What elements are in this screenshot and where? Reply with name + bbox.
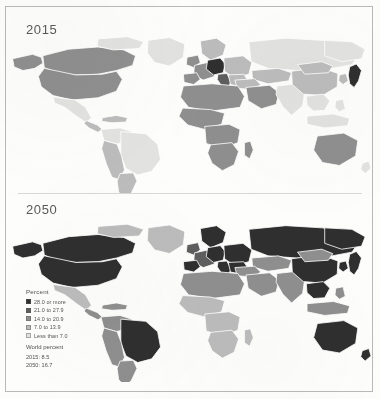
legend-item-label: 28.0 or more — [34, 299, 66, 305]
legend-swatch — [26, 325, 31, 330]
legend-item: 14.0 to 20.9 — [26, 315, 118, 322]
region-australia — [314, 133, 358, 165]
region-japan — [348, 64, 361, 88]
region-japan — [348, 251, 361, 275]
region-north-africa — [180, 271, 244, 298]
region-philippines — [335, 99, 345, 112]
legend-item: 7.0 to 13.9 — [26, 324, 118, 331]
region-canada-arctic — [97, 224, 143, 237]
region-southern-africa — [208, 330, 239, 358]
region-southeast-asia — [306, 282, 330, 299]
region-mexico — [53, 97, 91, 123]
legend-item-label: 21.0 to 27.9 — [34, 307, 64, 313]
region-indonesia — [307, 301, 350, 315]
region-madagascar — [244, 141, 253, 159]
world-percent-row: 2015: 8.5 — [26, 353, 118, 361]
legend-item: Less than 7.0 — [26, 332, 118, 339]
region-korea — [339, 73, 349, 84]
legend-item: 21.0 to 27.9 — [26, 307, 118, 314]
region-argentina — [117, 360, 137, 382]
legend-swatch — [26, 316, 31, 321]
world-map-2015 — [6, 8, 374, 194]
map-legend: Percent 28.0 or more 21.0 to 27.9 14.0 t… — [26, 288, 118, 341]
region-alaska — [13, 54, 43, 70]
region-madagascar — [244, 329, 253, 347]
world-percent-title: World percent — [26, 344, 118, 350]
legend-swatch — [26, 333, 31, 338]
region-scandinavia — [200, 38, 226, 60]
legend-item-label: Less than 7.0 — [34, 333, 68, 339]
region-brazil — [121, 132, 161, 175]
region-brazil — [121, 319, 161, 362]
region-central-america — [84, 121, 102, 133]
region-australia — [314, 321, 358, 353]
legend-title: Percent — [26, 288, 118, 295]
world-percent-row: 2050: 16.7 — [26, 361, 118, 369]
region-southeast-asia — [306, 94, 330, 111]
region-caribbean — [102, 115, 128, 122]
region-middle-east — [246, 85, 279, 109]
region-new-zealand — [361, 161, 371, 174]
region-southern-africa — [208, 143, 239, 171]
panel-divider — [18, 193, 362, 194]
legend-swatch — [26, 299, 31, 304]
world-percent-block: World percent 2015: 8.5 2050: 16.7 — [26, 344, 118, 369]
region-canada-arctic — [97, 37, 143, 50]
region-greenland — [147, 37, 185, 66]
region-scandinavia — [200, 226, 226, 248]
world-map-svg-2015 — [6, 18, 374, 193]
region-iberia — [183, 73, 200, 85]
region-new-zealand — [361, 349, 371, 362]
region-philippines — [335, 287, 345, 300]
region-alaska — [13, 242, 43, 258]
region-indonesia — [307, 114, 350, 128]
region-iberia — [183, 260, 200, 272]
region-greenland — [147, 225, 185, 254]
legend-item-label: 7.0 to 13.9 — [34, 324, 61, 330]
figure-container: 2015 — [0, 0, 380, 399]
region-argentina — [117, 173, 137, 193]
region-korea — [339, 261, 349, 272]
map-panel-2015: 2015 — [6, 8, 374, 194]
map-panel-2050: 2050 — [6, 196, 374, 392]
region-middle-east — [246, 273, 279, 297]
legend-swatch — [26, 308, 31, 313]
legend-item: 28.0 or more — [26, 298, 118, 305]
region-north-africa — [180, 84, 244, 111]
legend-item-label: 14.0 to 20.9 — [34, 316, 64, 322]
